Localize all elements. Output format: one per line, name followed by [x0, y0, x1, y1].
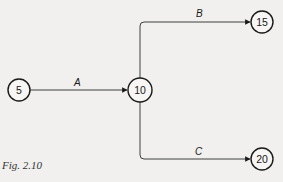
node-20-label: 20 — [256, 153, 268, 165]
edge-label-b: B — [196, 8, 203, 19]
node-15: 15 — [251, 11, 273, 33]
node-20: 20 — [251, 148, 273, 170]
node-10: 10 — [128, 78, 152, 102]
node-5-label: 5 — [16, 84, 22, 96]
node-10-label: 10 — [134, 84, 146, 96]
edge-b — [140, 22, 250, 78]
edge-label-c: C — [195, 146, 203, 157]
node-5: 5 — [8, 79, 30, 101]
edge-label-a: A — [73, 77, 81, 88]
figure-caption: Fig. 2.10 — [2, 159, 42, 171]
node-15-label: 15 — [256, 16, 268, 28]
network-diagram: A B C 5 10 15 20 — [0, 0, 283, 182]
